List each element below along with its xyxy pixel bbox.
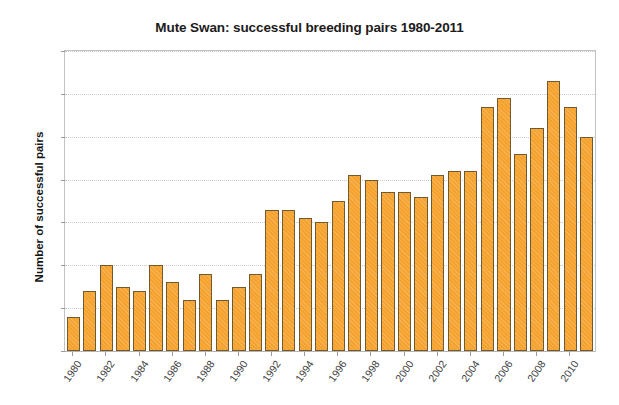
- x-tick-mark: [72, 352, 73, 356]
- x-tick-mark: [304, 352, 305, 356]
- x-tick-mark: [370, 352, 371, 356]
- bar: [464, 171, 477, 351]
- bars-layer: [65, 51, 595, 351]
- x-tick-mark: [470, 352, 471, 356]
- x-tick-mark: [105, 352, 106, 356]
- x-tick-mark: [271, 352, 272, 356]
- chart-title: Mute Swan: successful breeding pairs 198…: [0, 20, 619, 35]
- bar: [530, 128, 543, 351]
- bar: [116, 287, 129, 351]
- bar: [564, 107, 577, 351]
- bar: [414, 197, 427, 351]
- bar: [481, 107, 494, 351]
- bar: [67, 317, 80, 351]
- bar: [83, 291, 96, 351]
- bar: [547, 81, 560, 351]
- bar: [133, 291, 146, 351]
- x-tick-label: 1980: [39, 358, 84, 405]
- bar: [497, 98, 510, 351]
- y-axis-title: Number of successful pairs: [33, 62, 45, 352]
- bar: [348, 175, 361, 351]
- x-tick-mark: [337, 352, 338, 356]
- x-tick-mark: [404, 352, 405, 356]
- bar: [232, 287, 245, 351]
- bar: [315, 222, 328, 351]
- bar: [249, 274, 262, 351]
- bar: [514, 154, 527, 351]
- bar: [448, 171, 461, 351]
- x-tick-mark: [238, 352, 239, 356]
- bar: [398, 192, 411, 351]
- x-tick-mark: [569, 352, 570, 356]
- bar: [100, 265, 113, 351]
- x-tick-mark: [437, 352, 438, 356]
- bar: [299, 218, 312, 351]
- bar: [216, 300, 229, 351]
- bar: [431, 175, 444, 351]
- plot-area: 010203040506070: [64, 50, 596, 352]
- bar: [265, 210, 278, 351]
- bar: [282, 210, 295, 351]
- x-tick-mark: [172, 352, 173, 356]
- bar: [381, 192, 394, 351]
- bar: [166, 282, 179, 351]
- bar: [199, 274, 212, 351]
- x-tick-mark: [205, 352, 206, 356]
- bar: [365, 180, 378, 351]
- x-tick-mark: [139, 352, 140, 356]
- bar: [332, 201, 345, 351]
- bar: [580, 137, 593, 351]
- x-axis-labels: 1980198219841986198819901992199419961998…: [64, 352, 596, 405]
- bar: [149, 265, 162, 351]
- x-tick-mark: [503, 352, 504, 356]
- bar: [183, 300, 196, 351]
- bar-chart: Mute Swan: successful breeding pairs 198…: [0, 0, 619, 405]
- x-tick-mark: [536, 352, 537, 356]
